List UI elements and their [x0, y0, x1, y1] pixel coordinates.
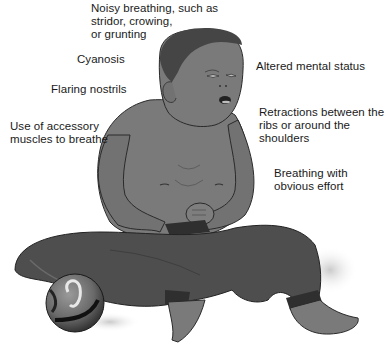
label-altered-mental-status: Altered mental status	[256, 60, 365, 73]
label-retractions: Retractions between the ribs or around t…	[259, 106, 384, 145]
toy-ball	[46, 274, 104, 332]
head	[159, 28, 243, 127]
label-breathing-effort: Breathing with obvious effort	[274, 167, 348, 193]
label-flaring-nostrils: Flaring nostrils	[51, 83, 127, 96]
torso	[98, 100, 254, 240]
right-foot	[290, 300, 358, 334]
left-foot	[168, 300, 205, 342]
label-accessory-muscles: Use of accessory muscles to breathe	[10, 120, 108, 146]
label-cyanosis: Cyanosis	[77, 53, 125, 66]
respiratory-distress-illustration: Noisy breathing, such as stridor, crowin…	[0, 0, 388, 345]
label-noisy-breathing: Noisy breathing, such as stridor, crowin…	[91, 2, 218, 41]
